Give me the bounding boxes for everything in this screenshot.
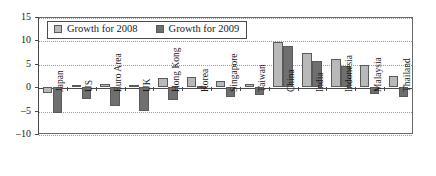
bar-group — [245, 17, 265, 134]
y-tick — [35, 134, 39, 135]
legend-label: Growth for 2008 — [67, 24, 138, 35]
bar[interactable] — [53, 87, 63, 113]
bar[interactable] — [331, 59, 341, 87]
x-tick — [153, 87, 154, 91]
bar[interactable] — [255, 87, 265, 95]
y-tick-label: –5 — [21, 106, 31, 116]
y-tick-label: 5 — [26, 59, 31, 69]
bar[interactable] — [312, 61, 322, 88]
bar-chart: 151050–5–10 JapanUSEuro AreaUKHong KongK… — [0, 0, 436, 176]
bar[interactable] — [216, 81, 226, 88]
bar[interactable] — [302, 53, 312, 87]
legend-swatch-icon — [156, 25, 164, 33]
bar[interactable] — [158, 78, 168, 87]
bar[interactable] — [283, 46, 293, 87]
chart-legend: Growth for 2008 Growth for 2009 — [47, 21, 247, 39]
bar-group — [302, 17, 322, 134]
bar[interactable] — [245, 84, 255, 87]
bar[interactable] — [110, 87, 120, 106]
bar-group — [389, 17, 409, 134]
x-tick — [125, 87, 126, 91]
bar-group — [273, 17, 293, 134]
x-tick — [384, 87, 385, 91]
bar[interactable] — [226, 87, 236, 96]
bar[interactable] — [187, 77, 197, 87]
y-tick-label: –10 — [16, 129, 31, 139]
bar[interactable] — [360, 65, 370, 87]
legend-swatch-icon — [54, 25, 62, 33]
bar[interactable] — [341, 66, 351, 88]
x-tick — [182, 87, 183, 91]
bar[interactable] — [129, 85, 139, 87]
bar-group — [360, 17, 380, 134]
x-tick — [96, 87, 97, 91]
bar[interactable] — [273, 42, 283, 87]
legend-label: Growth for 2009 — [169, 24, 240, 35]
legend-item-2008[interactable]: Growth for 2008 — [54, 24, 138, 35]
bar[interactable] — [43, 87, 53, 93]
bar[interactable] — [370, 87, 380, 94]
y-tick-label: 15 — [21, 12, 31, 22]
bar[interactable] — [139, 87, 149, 110]
x-tick — [211, 87, 212, 91]
x-tick — [67, 87, 68, 91]
y-axis-labels: 151050–5–10 — [0, 0, 34, 176]
bar[interactable] — [82, 87, 92, 99]
bar[interactable] — [100, 84, 110, 87]
x-tick — [240, 87, 241, 91]
legend-item-2009[interactable]: Growth for 2009 — [156, 24, 240, 35]
x-tick — [326, 87, 327, 91]
bar[interactable] — [197, 86, 207, 88]
x-tick — [269, 87, 270, 91]
x-tick — [298, 87, 299, 91]
x-tick — [355, 87, 356, 91]
bar[interactable] — [389, 76, 399, 88]
gridline — [39, 135, 412, 136]
bar[interactable] — [399, 87, 409, 97]
y-tick-label: 10 — [21, 35, 31, 45]
bar[interactable] — [72, 85, 82, 87]
y-tick-label: 0 — [26, 82, 31, 92]
bar[interactable] — [168, 87, 178, 100]
bar-group — [331, 17, 351, 134]
